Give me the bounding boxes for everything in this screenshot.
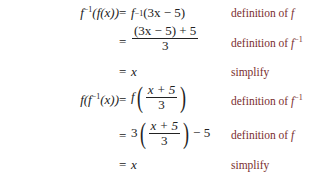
fraction: x + 5 3 (146, 83, 178, 112)
equals-sign: = (119, 92, 126, 108)
left-paren: ( (140, 118, 146, 148)
right-paren: ) (183, 118, 189, 148)
justification-label: definition of f−1 (231, 35, 303, 49)
rhs-expression: 3 ( x + 5 3 ) − 5 (131, 118, 210, 148)
equals-sign: = (119, 5, 126, 21)
left-paren: ( (137, 82, 143, 112)
fraction: x + 5 3 (149, 119, 181, 148)
numerator: x + 5 (149, 119, 181, 134)
denominator: 3 (158, 98, 165, 112)
rhs-expression: f ( x + 5 3 ) (131, 82, 188, 112)
numerator: x + 5 (146, 83, 178, 98)
right-paren: ) (180, 82, 186, 112)
numerator: (3x − 5) + 5 (132, 24, 198, 39)
equation-row-2: = (3x − 5) + 5 3 definition of f−1 (0, 24, 319, 60)
rhs-x: x (131, 64, 137, 80)
justification-label: definition of f (231, 129, 294, 141)
rhs-x: x (131, 157, 137, 173)
fraction: (3x − 5) + 5 3 (132, 24, 198, 53)
equals-sign: = (119, 157, 126, 173)
denominator: 3 (161, 134, 168, 148)
equation-row-4: f(f−1(x)) = f ( x + 5 3 ) definition of … (0, 82, 319, 118)
denominator: 3 (162, 39, 169, 53)
justification-label: simplify (231, 66, 269, 78)
equals-sign: = (119, 64, 126, 80)
equals-sign: = (119, 34, 126, 50)
lhs-f-of-finv-of-x: f(f−1(x)) (80, 92, 119, 108)
equals-sign: = (119, 128, 126, 144)
justification-label: definition of f (231, 7, 294, 19)
lhs-finv-of-f-of-x: f−1(f(x)) (80, 5, 119, 21)
justification-label: definition of f−1 (231, 93, 303, 107)
rhs-expression: f−1(3x − 5) (131, 5, 185, 21)
equation-row-6: = x simplify (0, 155, 319, 185)
equation-row-5: = 3 ( x + 5 3 ) − 5 definition of f (0, 118, 319, 154)
rhs-fraction: (3x − 5) + 5 3 (131, 24, 199, 53)
justification-label: simplify (231, 159, 269, 171)
